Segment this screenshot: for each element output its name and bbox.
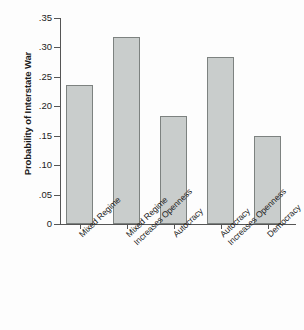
y-tick-label: .10 — [12, 159, 52, 170]
y-tick-mark — [54, 47, 60, 48]
y-tick-mark — [54, 77, 60, 78]
y-tick-mark — [54, 165, 60, 166]
y-tick-mark — [54, 224, 60, 225]
bar-chart: Probability of Interstate War 0.05.10.15… — [0, 0, 304, 330]
bar — [66, 85, 93, 224]
y-tick-label: .30 — [12, 41, 52, 52]
y-tick-label: .05 — [12, 189, 52, 200]
y-tick-label: 0 — [12, 218, 52, 229]
y-axis-line — [60, 18, 61, 225]
y-tick-label: .15 — [12, 130, 52, 141]
bar — [207, 57, 234, 224]
y-tick-mark — [54, 18, 60, 19]
y-tick-label: .20 — [12, 100, 52, 111]
y-tick-mark — [54, 195, 60, 196]
y-tick-label: .35 — [12, 12, 52, 23]
y-tick-mark — [54, 106, 60, 107]
y-tick-mark — [54, 136, 60, 137]
y-tick-label: .25 — [12, 71, 52, 82]
